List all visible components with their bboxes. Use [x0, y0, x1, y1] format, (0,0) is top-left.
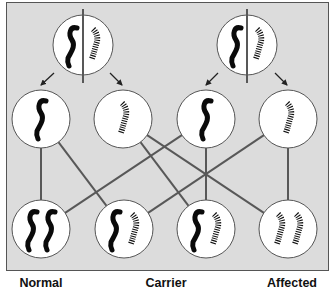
gamete-2-cell	[94, 90, 152, 148]
label-normal: Normal	[19, 276, 62, 290]
cell-circle	[177, 200, 235, 258]
gamete-1-cell	[12, 90, 70, 148]
offspring-1-cell	[12, 200, 70, 258]
gamete-3-cell	[177, 90, 235, 148]
offspring-2-cell	[95, 200, 153, 258]
gamete-4-cell	[259, 90, 317, 148]
offspring-4-cell	[259, 200, 317, 258]
cell-circle	[259, 90, 317, 148]
cell-circle	[12, 200, 70, 258]
label-carrier: Carrier	[146, 276, 187, 290]
label-affected: Affected	[267, 276, 317, 290]
inheritance-diagram	[0, 0, 335, 293]
offspring-3-cell	[177, 200, 235, 258]
cell-circle	[95, 200, 153, 258]
cell-circle	[94, 90, 152, 148]
cell-circle	[259, 200, 317, 258]
